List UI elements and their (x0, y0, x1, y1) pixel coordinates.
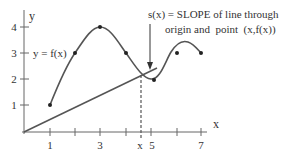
y-tick-label-1: 1 (11, 99, 17, 111)
data-points (48, 25, 203, 107)
x-tick-label-3: 3 (97, 139, 103, 151)
function-curve (50, 27, 201, 105)
x-tick-label-1: 1 (47, 139, 53, 151)
marked-x-label: x (137, 139, 143, 151)
annotation-line-1: s(x) = SLOPE of line through (148, 8, 279, 21)
curve-label: y = f(x) (33, 47, 67, 60)
function-graph: 1 3 5 7 x 1 2 3 4 x y y = f(x) s(x) = SL… (0, 0, 286, 154)
y-tick-label-2: 2 (11, 73, 17, 85)
secant-line (24, 68, 157, 132)
annotation-arrow-icon (147, 24, 153, 70)
y-tick-label-3: 3 (11, 47, 17, 59)
x-tick-label-7: 7 (198, 139, 204, 151)
x-axis-label: x (213, 117, 219, 131)
x-tick-label-5: 5 (149, 139, 155, 151)
y-tick-label-4: 4 (11, 21, 17, 33)
y-axis-label: y (29, 9, 35, 23)
annotation-line-2: origin and point (x,f(x)) (165, 23, 276, 36)
